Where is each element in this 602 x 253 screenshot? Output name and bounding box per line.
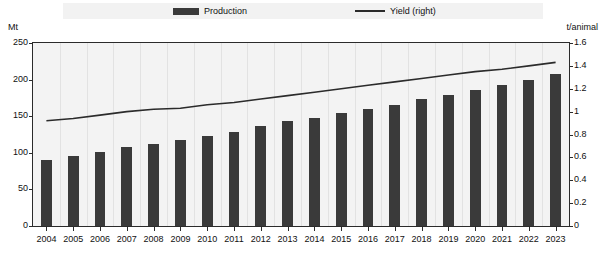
yield-line-path (46, 62, 555, 120)
x-axis-tick (556, 227, 557, 231)
x-axis-tick (46, 227, 47, 231)
left-axis-tick-label: 50 (2, 184, 28, 193)
x-axis-tick (127, 227, 128, 231)
x-axis-tick (368, 227, 369, 231)
chart-figure: Production Yield (right) Mt t/animal 050… (0, 0, 602, 253)
x-axis-tick (180, 227, 181, 231)
legend-item-yield: Yield (right) (355, 3, 436, 19)
legend-swatch-yield-icon (355, 10, 385, 12)
right-axis-tick-label: 1.4 (574, 61, 600, 70)
right-axis-tick-label: 1.2 (574, 84, 600, 93)
right-axis-tick (569, 135, 573, 136)
x-axis-label-2023: 2023 (541, 234, 571, 244)
left-axis-tick-label: 100 (2, 148, 28, 157)
x-axis-label-2007: 2007 (112, 234, 142, 244)
left-axis-tick-label: 0 (2, 221, 28, 230)
x-axis-tick (73, 227, 74, 231)
x-axis-tick (234, 227, 235, 231)
x-axis-tick (502, 227, 503, 231)
x-axis-label-2013: 2013 (273, 234, 303, 244)
left-axis-unit: Mt (8, 22, 18, 32)
right-axis-tick-label: 1.6 (574, 38, 600, 47)
x-axis-tick (207, 227, 208, 231)
right-axis-tick (569, 112, 573, 113)
x-axis-label-2017: 2017 (380, 234, 410, 244)
legend-item-production: Production (173, 3, 247, 19)
right-axis-tick-label: 0.4 (574, 175, 600, 184)
x-axis-label-2018: 2018 (407, 234, 437, 244)
right-axis-tick (569, 66, 573, 67)
left-axis-tick (29, 43, 33, 44)
left-axis-tick-label: 200 (2, 75, 28, 84)
legend-label-production: Production (204, 3, 247, 19)
right-axis-tick (569, 89, 573, 90)
right-axis-tick-label: 0.2 (574, 198, 600, 207)
x-axis-tick (475, 227, 476, 231)
left-axis-tick-label: 250 (2, 38, 28, 47)
line-series-yield (33, 43, 569, 226)
right-axis-tick (569, 43, 573, 44)
left-axis-tick (29, 116, 33, 117)
x-axis-tick (422, 227, 423, 231)
x-axis-label-2019: 2019 (433, 234, 463, 244)
x-axis-label-2015: 2015 (326, 234, 356, 244)
x-axis-label-2010: 2010 (192, 234, 222, 244)
x-axis-tick (341, 227, 342, 231)
x-axis-tick (288, 227, 289, 231)
right-axis-tick-label: 1 (574, 107, 600, 116)
legend-label-yield: Yield (right) (390, 3, 436, 19)
x-axis-label-2021: 2021 (487, 234, 517, 244)
x-axis-label-2009: 2009 (165, 234, 195, 244)
right-axis-unit: t/animal (566, 22, 598, 32)
chart-legend: Production Yield (right) (63, 3, 543, 19)
right-axis-tick-label: 0 (574, 221, 600, 230)
right-axis-tick (569, 180, 573, 181)
x-axis: 2004200520062007200820092010201120122013… (32, 227, 570, 253)
x-axis-label-2008: 2008 (139, 234, 169, 244)
x-axis-label-2005: 2005 (58, 234, 88, 244)
x-axis-label-2022: 2022 (514, 234, 544, 244)
x-axis-tick (448, 227, 449, 231)
left-axis-tick (29, 189, 33, 190)
x-axis-tick (100, 227, 101, 231)
x-axis-label-2004: 2004 (31, 234, 61, 244)
legend-swatch-production-icon (173, 8, 199, 15)
left-axis-labels: 050100150200250 (0, 42, 28, 227)
x-axis-label-2020: 2020 (460, 234, 490, 244)
x-axis-label-2016: 2016 (353, 234, 383, 244)
x-axis-tick (261, 227, 262, 231)
x-axis-label-2014: 2014 (299, 234, 329, 244)
x-axis-label-2012: 2012 (246, 234, 276, 244)
x-axis-tick (314, 227, 315, 231)
left-axis-tick (29, 80, 33, 81)
right-axis-tick (569, 203, 573, 204)
plot-area (32, 42, 570, 227)
x-axis-label-2006: 2006 (85, 234, 115, 244)
right-axis-tick (569, 157, 573, 158)
left-axis-tick-label: 150 (2, 111, 28, 120)
left-axis-tick (29, 153, 33, 154)
right-axis-labels: 00.20.40.60.811.21.41.6 (574, 42, 602, 227)
right-axis-tick-label: 0.6 (574, 152, 600, 161)
x-axis-tick (154, 227, 155, 231)
right-axis-tick-label: 0.8 (574, 130, 600, 139)
x-axis-tick (395, 227, 396, 231)
x-axis-label-2011: 2011 (219, 234, 249, 244)
x-axis-tick (529, 227, 530, 231)
